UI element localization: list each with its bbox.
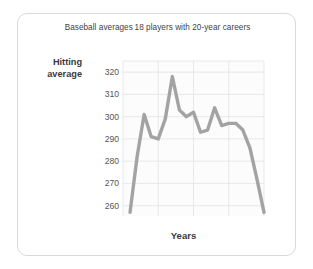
plot-area: 250260270280290300310320 05101520 [101, 49, 266, 216]
y-tick-label: 320 [105, 67, 120, 77]
y-axis-title-line1: Hitting [20, 56, 82, 68]
x-axis-title: Years [101, 230, 266, 241]
y-tick-labels: 250260270280290300310320 [105, 67, 120, 216]
y-axis-title: Hitting average [20, 56, 82, 80]
y-tick-label: 310 [105, 89, 120, 99]
y-tick-label: 290 [105, 134, 120, 144]
figure-card: Baseball averages 18 players with 20-yea… [17, 13, 296, 256]
y-axis-title-line2: average [20, 68, 82, 80]
y-tick-label: 280 [105, 156, 120, 166]
y-tick-label: 260 [105, 201, 120, 211]
line-chart-svg: 250260270280290300310320 05101520 [101, 49, 266, 216]
chart-title: Baseball averages 18 players with 20-yea… [18, 23, 297, 32]
y-tick-label: 270 [105, 178, 120, 188]
y-tick-label: 300 [105, 112, 120, 122]
